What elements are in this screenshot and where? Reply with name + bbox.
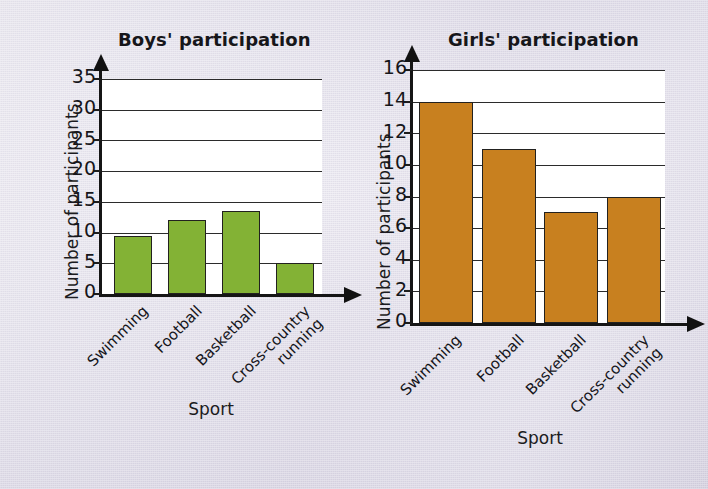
gridline [101, 140, 322, 141]
x-axis-label-girls: Sport [480, 428, 600, 448]
bar [168, 220, 206, 294]
bar [482, 149, 536, 323]
y-axis-tick-label: 25 [50, 127, 96, 149]
gridline [101, 110, 322, 111]
bar [419, 102, 473, 323]
x-axis-arrow-girls [687, 316, 705, 332]
gridline [101, 233, 322, 234]
y-axis-tick-label: 12 [361, 120, 407, 142]
gridline [101, 79, 322, 80]
y-axis-tick-label: 4 [361, 246, 407, 268]
x-axis-label-boys: Sport [151, 399, 271, 419]
y-axis-tick-label: 2 [361, 278, 407, 300]
x-axis-line-girls [410, 323, 687, 326]
bar [544, 212, 598, 323]
plot-area-boys [101, 79, 322, 294]
y-axis-tick-label: 5 [50, 250, 96, 272]
chart-title-boys: Boys' participation [118, 29, 311, 50]
plot-area-girls [412, 70, 665, 323]
gridline [412, 70, 665, 71]
y-axis-tick-label: 15 [50, 188, 96, 210]
y-axis-tick-label: 0 [361, 309, 407, 331]
bar [276, 263, 314, 294]
bar [114, 236, 152, 294]
y-axis-tick-label: 10 [361, 151, 407, 173]
gridline [101, 171, 322, 172]
bar [607, 197, 661, 324]
y-axis-tick-label: 8 [361, 183, 407, 205]
y-axis-tick-label: 20 [50, 157, 96, 179]
y-axis-tick-label: 14 [361, 88, 407, 110]
chart-title-girls: Girls' participation [448, 29, 639, 50]
x-axis-arrow-boys [344, 287, 362, 303]
y-axis-tick-label: 30 [50, 96, 96, 118]
y-axis-tick-label: 16 [361, 56, 407, 78]
y-axis-tick-label: 0 [50, 280, 96, 302]
y-axis-tick-label: 10 [50, 219, 96, 241]
x-axis-line-boys [99, 294, 344, 297]
gridline [101, 202, 322, 203]
y-axis-line-boys [99, 70, 102, 294]
bar [222, 211, 260, 294]
y-axis-tick-label: 35 [50, 65, 96, 87]
y-axis-tick-label: 6 [361, 214, 407, 236]
